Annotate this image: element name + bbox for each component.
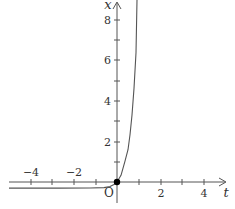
origin-label: O: [104, 186, 114, 200]
x-tick-label-4: 4: [104, 95, 111, 108]
x-axis-label: x: [104, 0, 112, 12]
t-tick-label-neg2: −2: [66, 166, 82, 179]
t-tick-label-4: 4: [201, 187, 208, 200]
x-tick-label-8: 8: [104, 14, 111, 27]
function-curve: [9, 0, 137, 188]
chart-canvas: −4 −2 2 4 2 4 6 8 t x O: [0, 0, 235, 209]
x-tick-label-6: 6: [104, 54, 111, 67]
t-axis-label: t: [223, 185, 229, 200]
t-tick-label-2: 2: [158, 187, 165, 200]
origin-point: [114, 179, 120, 185]
t-tick-label-neg4: −4: [23, 166, 39, 179]
x-tick-label-2: 2: [104, 136, 111, 149]
